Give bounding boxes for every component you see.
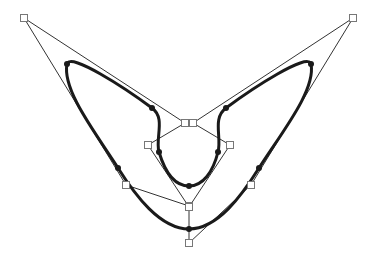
control-point-handle[interactable] <box>123 182 130 189</box>
control-point-handle[interactable] <box>227 142 234 149</box>
knot-point <box>186 183 192 189</box>
control-point-handle[interactable] <box>190 120 197 127</box>
knot-point <box>156 149 162 155</box>
knot-point <box>149 105 155 111</box>
knot-point <box>256 165 262 171</box>
control-point-handle[interactable] <box>21 15 28 22</box>
knot-point <box>186 226 192 232</box>
knot-point <box>308 61 314 67</box>
control-point-handle[interactable] <box>186 240 193 247</box>
knot-point <box>215 149 221 155</box>
knot-point <box>64 61 70 67</box>
diagram-canvas <box>0 0 377 268</box>
control-point-handle[interactable] <box>350 15 357 22</box>
control-point-handle[interactable] <box>145 142 152 149</box>
knot-point <box>115 165 121 171</box>
control-point-handle[interactable] <box>248 182 255 189</box>
control-point-handle[interactable] <box>186 204 193 211</box>
control-point-handle[interactable] <box>182 120 189 127</box>
knot-point <box>223 105 229 111</box>
